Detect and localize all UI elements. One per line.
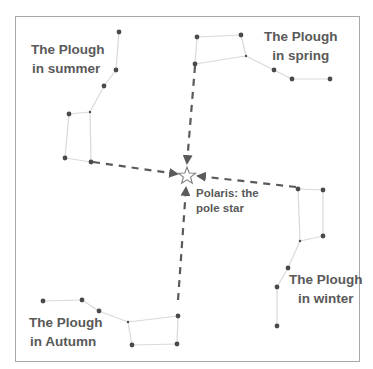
label-autumn-line2: in Autumn (29, 332, 103, 351)
star-dot-icon (290, 77, 295, 82)
label-polaris-line2: pole star (196, 201, 259, 216)
star-dot-icon (275, 285, 280, 290)
constellation-line-summer (116, 32, 119, 70)
arrow-lines (93, 66, 296, 300)
arrow-from-spring (187, 66, 195, 163)
star-dot-icon (89, 160, 94, 165)
star-dot-icon (176, 314, 181, 319)
constellation-line-winter (277, 268, 288, 287)
star-dot-icon (321, 234, 326, 239)
label-winter-line2: in winter (289, 289, 363, 308)
star-dot-icon (130, 343, 135, 348)
constellation-line-autumn (132, 344, 177, 345)
label-winter-line1: The Plough (289, 270, 363, 289)
constellation-line-autumn (82, 300, 99, 311)
label-winter: The Plough in winter (289, 270, 363, 308)
constellation-line-winter (298, 189, 300, 241)
constellation-line-winter (298, 189, 323, 190)
constellation-line-summer (104, 70, 116, 86)
constellation-line-summer (69, 112, 90, 114)
star-dot-icon (328, 77, 333, 82)
constellation-line-spring (195, 56, 246, 64)
star-dot-icon (102, 84, 107, 89)
constellation-line-autumn (99, 311, 128, 322)
star-dot-icon (272, 68, 277, 73)
polaris-star-icon (178, 167, 195, 183)
constellation-line-autumn (177, 316, 178, 344)
star-dot-icon (80, 298, 85, 303)
label-autumn-line1: The Plough (29, 313, 103, 332)
star-dot-icon (63, 156, 68, 161)
star-dot-icon (245, 55, 247, 57)
label-spring-line1: The Plough (264, 27, 338, 46)
label-summer-line2: in summer (31, 59, 105, 78)
star-dot-icon (175, 342, 180, 347)
star-dot-icon (239, 33, 244, 38)
label-autumn: The Plough in Autumn (29, 313, 103, 351)
constellation-line-autumn (128, 316, 178, 322)
star-dot-icon (193, 62, 198, 67)
label-spring-line2: in spring (264, 46, 338, 65)
constellation-lines (43, 32, 330, 345)
label-summer: The Plough in summer (31, 40, 105, 78)
star-dot-icon (67, 112, 72, 117)
constellation-line-summer (90, 86, 104, 112)
arrow-from-summer (93, 162, 177, 174)
label-summer-line1: The Plough (31, 40, 105, 59)
star-dot-icon (296, 187, 301, 192)
label-polaris-line1: Polaris: the (196, 186, 259, 201)
constellation-line-autumn (43, 300, 82, 301)
constellation-line-spring (197, 35, 241, 37)
constellation-line-winter (300, 236, 323, 241)
label-polaris: Polaris: the pole star (196, 186, 259, 216)
constellation-line-winter (288, 241, 300, 268)
constellation-line-summer (65, 158, 91, 162)
star-dot-icon (114, 68, 119, 73)
star-dot-icon (89, 111, 91, 113)
star-dot-icon (117, 30, 122, 35)
arrow-from-autumn (178, 188, 186, 300)
constellation-line-summer (90, 112, 91, 162)
star-dot-icon (127, 321, 129, 323)
label-spring: The Plough in spring (264, 27, 338, 65)
star-dot-icon (275, 324, 280, 329)
constellation-line-autumn (128, 322, 132, 345)
star-dot-icon (321, 188, 326, 193)
constellation-line-spring (241, 35, 246, 56)
star-dot-icon (41, 299, 46, 304)
constellation-line-spring (195, 37, 197, 64)
star-dot-icon (299, 240, 301, 242)
constellation-line-summer (65, 114, 69, 158)
constellation-line-spring (274, 70, 292, 79)
star-dot-icon (195, 35, 200, 40)
